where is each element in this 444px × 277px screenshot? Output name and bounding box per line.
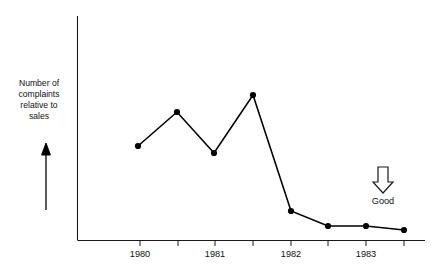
data-point <box>401 227 407 233</box>
series-markers <box>135 92 407 233</box>
arrow-up-icon <box>42 143 51 210</box>
data-point <box>288 208 294 214</box>
x-tick-label-1980: 1980 <box>130 249 150 259</box>
data-point <box>211 150 217 156</box>
x-tick-label-1983: 1983 <box>356 249 376 259</box>
y-axis-label: Number of complaints relative to sales <box>8 78 70 122</box>
data-point <box>325 223 331 229</box>
data-point <box>250 92 256 98</box>
chart-canvas: Number of complaints relative to sales 1… <box>0 0 444 277</box>
data-point <box>174 109 180 115</box>
chart-plot-svg <box>0 0 444 277</box>
good-annotation-label: Good <box>372 196 394 206</box>
arrow-down-icon <box>373 167 393 193</box>
chart-screenshot: Number of complaints relative to sales 1… <box>0 0 444 277</box>
series-line-complaints <box>138 95 404 230</box>
data-point <box>135 143 141 149</box>
x-tick-label-1982: 1982 <box>281 249 301 259</box>
data-point <box>363 223 369 229</box>
x-tick-label-1981: 1981 <box>205 249 225 259</box>
